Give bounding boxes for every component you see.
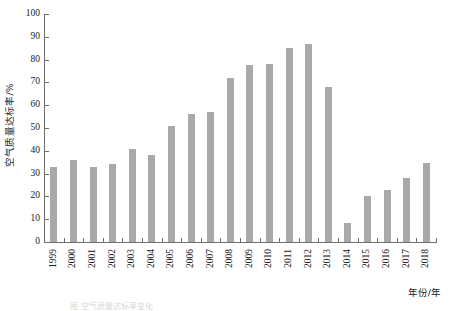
x-axis-tick — [44, 238, 45, 243]
bar — [266, 64, 273, 242]
bar — [325, 87, 332, 242]
x-axis-tick — [122, 238, 123, 243]
y-axis-tick — [45, 105, 49, 106]
y-axis-title-label: 空气质量达标率/% — [2, 83, 16, 167]
y-axis-tick — [45, 242, 49, 243]
x-axis-title: 年份/年 — [408, 285, 441, 299]
x-axis-tick-label: 2015 — [363, 249, 373, 268]
x-axis-tick — [142, 238, 143, 243]
x-axis-tick-label: 2004 — [147, 249, 157, 268]
bar — [148, 155, 155, 242]
x-axis-tick — [338, 238, 339, 243]
x-axis-tick — [181, 238, 182, 243]
bar — [344, 223, 351, 242]
x-axis-tick-label: 2000 — [69, 249, 79, 268]
x-axis-tick-label: 2011 — [284, 249, 294, 268]
bar — [168, 126, 175, 242]
bar — [50, 167, 57, 242]
y-axis-tick — [45, 151, 49, 152]
x-axis-tick-label: 2014 — [343, 249, 353, 268]
bar — [207, 112, 214, 242]
x-axis-tick — [358, 238, 359, 243]
y-axis-tick-label: 50 — [31, 123, 41, 133]
y-axis-tick — [45, 196, 49, 197]
y-axis-tick — [45, 60, 49, 61]
x-axis-tick-label: 2008 — [225, 249, 235, 268]
bar — [90, 167, 97, 242]
y-axis-tick-label: 40 — [31, 146, 41, 156]
bar — [70, 160, 77, 242]
y-axis-tick — [45, 82, 49, 83]
y-axis-tick-label: 30 — [31, 169, 41, 179]
x-axis-tick — [299, 238, 300, 243]
x-axis-tick-label: 2001 — [88, 249, 98, 268]
x-axis-tick-label: 2016 — [382, 249, 392, 268]
bar — [246, 65, 253, 242]
y-axis-tick-label: 60 — [31, 100, 41, 110]
y-axis-tick — [45, 37, 49, 38]
x-axis-tick-label: 2012 — [304, 249, 314, 268]
bar — [384, 190, 391, 242]
x-axis-tick — [83, 238, 84, 243]
x-axis-tick-label: 2002 — [108, 249, 118, 268]
bar — [305, 44, 312, 242]
x-axis-tick-label: 2003 — [127, 249, 137, 268]
x-axis-tick — [240, 238, 241, 243]
x-axis-tick — [377, 238, 378, 243]
x-axis-tick — [64, 238, 65, 243]
y-axis-tick — [45, 14, 49, 15]
plot-area: 0102030405060708090100 — [44, 14, 436, 243]
x-axis-tick-label: 2006 — [186, 249, 196, 268]
bar — [403, 178, 410, 242]
bar — [129, 149, 136, 242]
y-axis-tick-label: 90 — [31, 32, 41, 42]
y-axis-tick — [45, 128, 49, 129]
bar — [109, 164, 116, 242]
x-axis-tick — [103, 238, 104, 243]
y-axis-tick-label: 100 — [26, 9, 40, 19]
bar — [286, 48, 293, 242]
y-axis-tick-label: 70 — [31, 78, 41, 88]
bar — [188, 114, 195, 242]
x-axis-tick-label: 1999 — [49, 249, 59, 268]
y-axis-tick-label: 80 — [31, 55, 41, 65]
x-axis-tick-label: 2013 — [323, 249, 333, 268]
x-axis-tick — [397, 238, 398, 243]
x-axis-tick-labels: 1999200020012002200320042005200620072008… — [44, 249, 436, 289]
figure-caption: 图 空气质量达标率变化 — [70, 300, 390, 311]
x-axis-tick-label: 2018 — [421, 249, 431, 268]
x-axis-tick — [162, 238, 163, 243]
y-axis-tick-label: 20 — [31, 192, 41, 202]
x-axis-tick — [436, 238, 437, 243]
x-axis-tick — [220, 238, 221, 243]
x-axis-tick-label: 2005 — [167, 249, 177, 268]
y-axis-tick-label: 0 — [35, 237, 40, 247]
x-axis-tick — [260, 238, 261, 243]
x-axis-tick-label: 2009 — [245, 249, 255, 268]
y-axis-title: 空气质量达标率/% — [0, 0, 18, 250]
y-axis-tick — [45, 174, 49, 175]
bar — [364, 196, 371, 242]
x-axis-tick-label: 2007 — [206, 249, 216, 268]
x-axis-tick — [201, 238, 202, 243]
y-axis-tick — [45, 219, 49, 220]
x-axis-tick — [279, 238, 280, 243]
bar — [227, 78, 234, 242]
x-axis-tick — [416, 238, 417, 243]
x-axis-tick-label: 2017 — [402, 249, 412, 268]
x-axis-tick — [318, 238, 319, 243]
bar — [423, 163, 430, 242]
y-axis-tick-label: 10 — [31, 214, 41, 224]
x-axis-tick-label: 2010 — [265, 249, 275, 268]
